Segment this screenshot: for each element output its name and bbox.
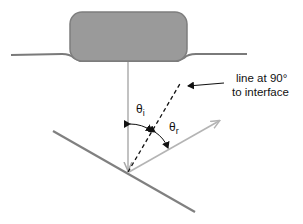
theta-i-label: θi (136, 102, 145, 118)
normal-line-label-line1: line at 90° (236, 72, 287, 84)
interface-line (53, 131, 195, 212)
transducer-object (70, 12, 187, 61)
angle-arc-theta-r (155, 132, 168, 148)
pointer-arrow (188, 83, 224, 86)
angle-arc-theta-i (130, 124, 152, 131)
reflection-diagram: θi θr line at 90° to interface (0, 0, 303, 224)
theta-r-label: θr (169, 120, 179, 136)
normal-line-label-line2: to interface (232, 86, 289, 98)
